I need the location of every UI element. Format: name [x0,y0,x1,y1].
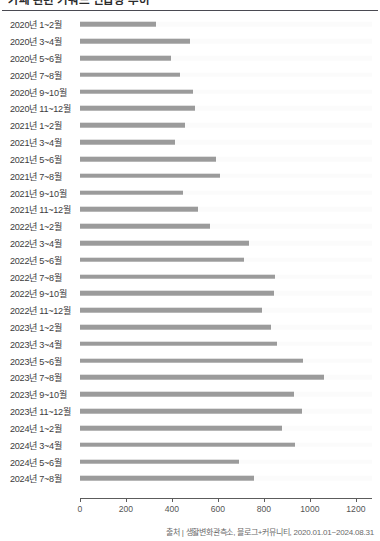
category-label: 2021년 1~2월 [10,118,62,132]
x-tick [218,498,219,502]
table-row: 2023년 11~12월 [0,403,380,420]
table-row: 2023년 5~6월 [0,352,380,369]
bar [80,358,303,363]
category-label: 2022년 1~2월 [10,219,62,233]
bar [80,409,302,414]
table-row: 2024년 1~2월 [0,420,380,437]
category-label: 2022년 5~6월 [10,253,62,267]
bar-track [80,73,372,78]
bar [80,291,274,296]
category-label: 2022년 11~12월 [10,303,71,317]
bar-track [80,392,372,397]
category-label: 2022년 3~4월 [10,236,62,250]
bar [80,476,254,481]
category-label: 2021년 3~4월 [10,135,62,149]
x-tick [172,498,173,502]
bar [80,375,324,380]
x-tick-label: 1000 [300,504,319,514]
category-label: 2024년 1~2월 [10,421,62,435]
bar-track [80,173,372,178]
bar [80,274,275,279]
x-tick-label: 800 [257,504,271,514]
bar-track [80,459,372,464]
bar-track [80,409,372,414]
category-label: 2020년 3~4월 [10,34,62,48]
x-tick-label: 200 [119,504,133,514]
x-tick-label: 1200 [346,504,365,514]
category-label: 2021년 11~12월 [10,202,71,216]
category-label: 2023년 3~4월 [10,337,62,351]
category-label: 2023년 5~6월 [10,354,62,368]
bar-track [80,224,372,229]
source-note: 출처 | 생활변화관측소, 블로그+커뮤니티, 2020.01.01~2024.… [166,526,374,537]
table-row: 2024년 7~8월 [0,470,380,487]
bar [80,207,198,212]
category-label: 2022년 7~8월 [10,270,62,284]
bar [80,56,171,61]
bar [80,123,185,128]
x-tick-label: 600 [211,504,225,514]
bar-track [80,342,372,347]
bar-track [80,89,372,94]
chart-page: 카페 관련 키워드 언급량 추이 2020년 1~2월2020년 3~4월202… [0,0,380,541]
category-label: 2020년 9~10월 [10,85,67,99]
category-label: 2021년 9~10월 [10,186,67,200]
bar-track [80,56,372,61]
bar-track [80,476,372,481]
table-row: 2021년 9~10월 [0,184,380,201]
table-row: 2023년 9~10월 [0,386,380,403]
bar-track [80,358,372,363]
bar [80,173,220,178]
category-label: 2024년 3~4월 [10,438,62,452]
x-tick [264,498,265,502]
x-axis-line [80,498,372,499]
bar-track [80,157,372,162]
x-tick-label: 400 [165,504,179,514]
table-row: 2020년 1~2월 [0,16,380,33]
bar-track [80,274,372,279]
bar [80,459,239,464]
category-label: 2020년 7~8월 [10,68,62,82]
bar [80,157,216,162]
table-row: 2024년 5~6월 [0,453,380,470]
x-tick [126,498,127,502]
table-row: 2021년 11~12월 [0,201,380,218]
x-tick [356,498,357,502]
bar [80,106,195,111]
bar [80,392,294,397]
table-row: 2020년 7~8월 [0,66,380,83]
bar-track [80,241,372,246]
bar [80,22,156,27]
bar [80,308,262,313]
bar-track [80,39,372,44]
category-label: 2023년 9~10월 [10,387,67,401]
table-row: 2024년 3~4월 [0,436,380,453]
bar-track [80,291,372,296]
bar [80,442,295,447]
bar [80,140,175,145]
bar-track [80,106,372,111]
category-label: 2023년 1~2월 [10,320,62,334]
bar-track [80,375,372,380]
table-row: 2022년 3~4월 [0,235,380,252]
table-row: 2022년 5~6월 [0,251,380,268]
table-row: 2022년 7~8월 [0,268,380,285]
table-row: 2022년 11~12월 [0,302,380,319]
bar [80,224,210,229]
bar [80,39,190,44]
x-tick [80,498,81,502]
table-row: 2020년 11~12월 [0,100,380,117]
bar [80,426,282,431]
table-row: 2021년 1~2월 [0,117,380,134]
category-label: 2020년 1~2월 [10,17,62,31]
table-row: 2021년 5~6월 [0,151,380,168]
x-tick-label: 0 [78,504,83,514]
table-row: 2020년 9~10월 [0,83,380,100]
bar-track [80,442,372,447]
bar [80,241,249,246]
page-title: 카페 관련 키워드 언급량 추이 [8,0,268,5]
bar-track [80,123,372,128]
bar-track [80,257,372,262]
x-tick [310,498,311,502]
bar-track [80,308,372,313]
